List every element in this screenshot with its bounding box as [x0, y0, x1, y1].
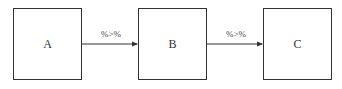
node-a-label: A — [14, 37, 81, 52]
node-b-label: B — [139, 37, 206, 52]
node-a: A — [13, 8, 82, 80]
node-c: C — [263, 8, 332, 80]
node-b: B — [138, 8, 207, 80]
edge-a-b-label: %>% — [91, 29, 131, 39]
node-c-label: C — [264, 37, 331, 52]
edge-b-c-label: %>% — [216, 29, 256, 39]
